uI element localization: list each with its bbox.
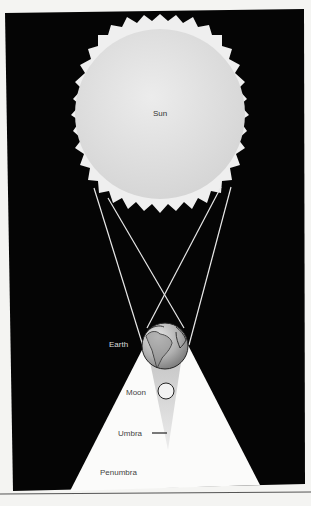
earth bbox=[142, 323, 188, 369]
lunar-eclipse-diagram: Sun Earth Moon Umbra Penumbra bbox=[0, 0, 311, 506]
moon bbox=[158, 383, 174, 399]
page-rule bbox=[0, 492, 311, 494]
earth-label: Earth bbox=[109, 340, 128, 349]
umbra-label: Umbra bbox=[118, 429, 143, 438]
moon-label: Moon bbox=[126, 388, 146, 397]
sun-label: Sun bbox=[153, 109, 167, 118]
penumbra-label: Penumbra bbox=[100, 468, 137, 477]
